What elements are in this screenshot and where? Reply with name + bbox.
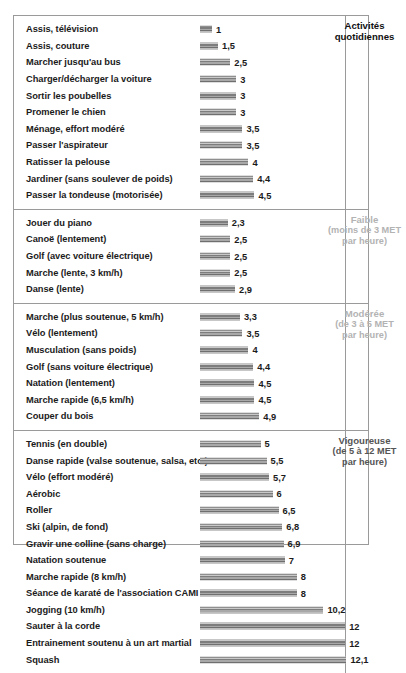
activity-bar — [200, 346, 248, 353]
activity-bar — [200, 640, 345, 647]
activity-met-value: 8 — [301, 572, 306, 582]
activity-name: Passer l'aspirateur — [26, 140, 108, 150]
activity-row: Natation soutenue7 — [14, 552, 345, 569]
activity-row: Marche rapide (6,5 km/h)4,5 — [14, 391, 345, 408]
activity-met-value: 4,9 — [263, 411, 276, 421]
activity-row-list: Marche (plus soutenue, 5 km/h)3,3Vélo (l… — [14, 309, 345, 425]
activity-row: Marcher jusqu'au bus2,5 — [14, 54, 345, 71]
activity-bar — [200, 142, 242, 149]
activity-row-list: Jouer du piano2,3Canoë (lentement)2,5Gol… — [14, 215, 345, 298]
activity-name: Danse rapide (valse soutenue, salsa, etc… — [26, 456, 208, 466]
activity-met-value: 4,4 — [257, 174, 270, 184]
activity-met-value: 3,3 — [244, 312, 257, 322]
activity-bar — [200, 474, 269, 481]
activity-name: Assis, couture — [26, 41, 89, 51]
activity-bar-wrap: 8 — [200, 573, 306, 580]
intensity-subtitle-line: (de 5 à 12 MET — [310, 446, 406, 457]
activity-met-value: 12 — [349, 638, 359, 648]
activity-met-value: 3,5 — [246, 124, 259, 134]
activity-met-value: 3,5 — [246, 140, 259, 150]
activity-name: Promener le chien — [26, 107, 106, 117]
activity-met-value: 6,9 — [288, 539, 301, 549]
activity-bar-wrap: 12 — [200, 623, 360, 630]
activity-name: Marche (lente, 3 km/h) — [26, 268, 123, 278]
activity-name: Marche rapide (8 km/h) — [26, 572, 126, 582]
activity-row: Vélo (effort modéré)5,7 — [14, 469, 345, 486]
activity-row: Canoë (lentement)2,5 — [14, 231, 345, 248]
activity-bar — [200, 396, 254, 403]
activity-bar-wrap: 3,5 — [200, 142, 259, 149]
intensity-title: Vigoureuse — [310, 435, 406, 446]
activity-group: Marche (plus soutenue, 5 km/h)3,3Vélo (l… — [14, 304, 368, 431]
activity-bar — [200, 192, 254, 199]
activity-bar-wrap: 4,4 — [200, 175, 270, 182]
activity-row: Ski (alpin, de fond)6,8 — [14, 519, 345, 536]
activity-name: Golf (sans voiture électrique) — [26, 362, 153, 372]
activity-row: Tennis (en double)5 — [14, 436, 345, 453]
activity-met-value: 3 — [240, 91, 245, 101]
activity-name: Jardiner (sans soulever de poids) — [26, 174, 173, 184]
activity-name: Tennis (en double) — [26, 439, 107, 449]
activity-met-value: 7 — [289, 555, 294, 565]
activity-bar — [200, 313, 240, 320]
activity-row: Charger/décharger la voiture3 — [14, 71, 345, 88]
activity-row: Ménage, effort modéré3,5 — [14, 121, 345, 138]
intensity-subtitle-line: (moins de 3 MET — [310, 225, 406, 236]
activity-bar-wrap: 2,5 — [200, 269, 247, 276]
activity-row: Séance de karaté de l'association CAMI8 — [14, 585, 345, 602]
activity-row: Jardiner (sans soulever de poids)4,4 — [14, 170, 345, 187]
activity-bar — [200, 363, 253, 370]
activity-row: Marche (plus soutenue, 5 km/h)3,3 — [14, 309, 345, 326]
activity-name: Ménage, effort modéré — [26, 124, 125, 134]
activity-row: Couper du bois4,9 — [14, 408, 345, 425]
activity-row: Assis, télévision1 — [14, 21, 345, 38]
activity-name: Roller — [26, 505, 52, 515]
activity-row: Roller6,5 — [14, 502, 345, 519]
activity-row: Gravir une colline (sans charge)6,9 — [14, 535, 345, 552]
activity-bar-wrap: 3,3 — [200, 313, 257, 320]
activity-bar-wrap: 6,9 — [200, 540, 300, 547]
activity-bar — [200, 159, 248, 166]
activity-name: Ski (alpin, de fond) — [26, 522, 108, 532]
activity-name: Sauter à la corde — [26, 621, 100, 631]
activity-bar-wrap: 5,5 — [200, 457, 283, 464]
activity-bar — [200, 269, 230, 276]
activity-met-value: 12 — [349, 621, 359, 631]
activity-met-value: 4,5 — [258, 395, 271, 405]
activity-bar — [200, 656, 346, 663]
activity-bar — [200, 92, 236, 99]
activity-name: Vélo (lentement) — [26, 328, 98, 338]
activity-met-value: 6,5 — [283, 505, 296, 515]
activity-met-value: 4 — [252, 345, 257, 355]
activity-name: Aérobic — [26, 489, 60, 499]
activity-row: Danse (lente)2,9 — [14, 281, 345, 298]
activity-group: Tennis (en double)5Danse rapide (valse s… — [14, 431, 368, 673]
activity-bar — [200, 76, 236, 83]
activity-bar-wrap: 3,5 — [200, 125, 259, 132]
activity-met-value: 12,1 — [350, 655, 368, 665]
activity-met-value: 1 — [216, 24, 221, 34]
activity-met-value: 2,9 — [239, 284, 252, 294]
activity-bar — [200, 42, 218, 49]
activity-name: Golf (avec voiture électrique) — [26, 251, 153, 261]
activity-bar — [200, 573, 297, 580]
activity-bar — [200, 175, 253, 182]
activity-met-value: 2,3 — [232, 218, 245, 228]
intensity-title: Activités — [310, 20, 406, 31]
activity-row-list: Tennis (en double)5Danse rapide (valse s… — [14, 436, 345, 668]
activity-bar — [200, 606, 323, 613]
activity-name: Marche (plus soutenue, 5 km/h) — [26, 312, 163, 322]
activity-row: Marche (lente, 3 km/h)2,5 — [14, 264, 345, 281]
activity-name: Marcher jusqu'au bus — [26, 57, 121, 67]
activity-bar — [200, 236, 230, 243]
activity-bar-wrap: 4,4 — [200, 363, 270, 370]
activity-row: Jogging (10 km/h)10,2 — [14, 602, 345, 619]
activity-bar-wrap: 4 — [200, 159, 258, 166]
activity-name: Gravir une colline (sans charge) — [26, 539, 166, 549]
intensity-caption-inner: Modérée(de 3 à 5 METpar heure) — [310, 308, 406, 341]
activity-bar — [200, 125, 242, 132]
activity-bar-wrap: 10,2 — [200, 606, 346, 613]
activity-met-value: 1,5 — [222, 41, 235, 51]
activity-bar-wrap: 4 — [200, 346, 258, 353]
activity-name: Natation (lentement) — [26, 378, 115, 388]
